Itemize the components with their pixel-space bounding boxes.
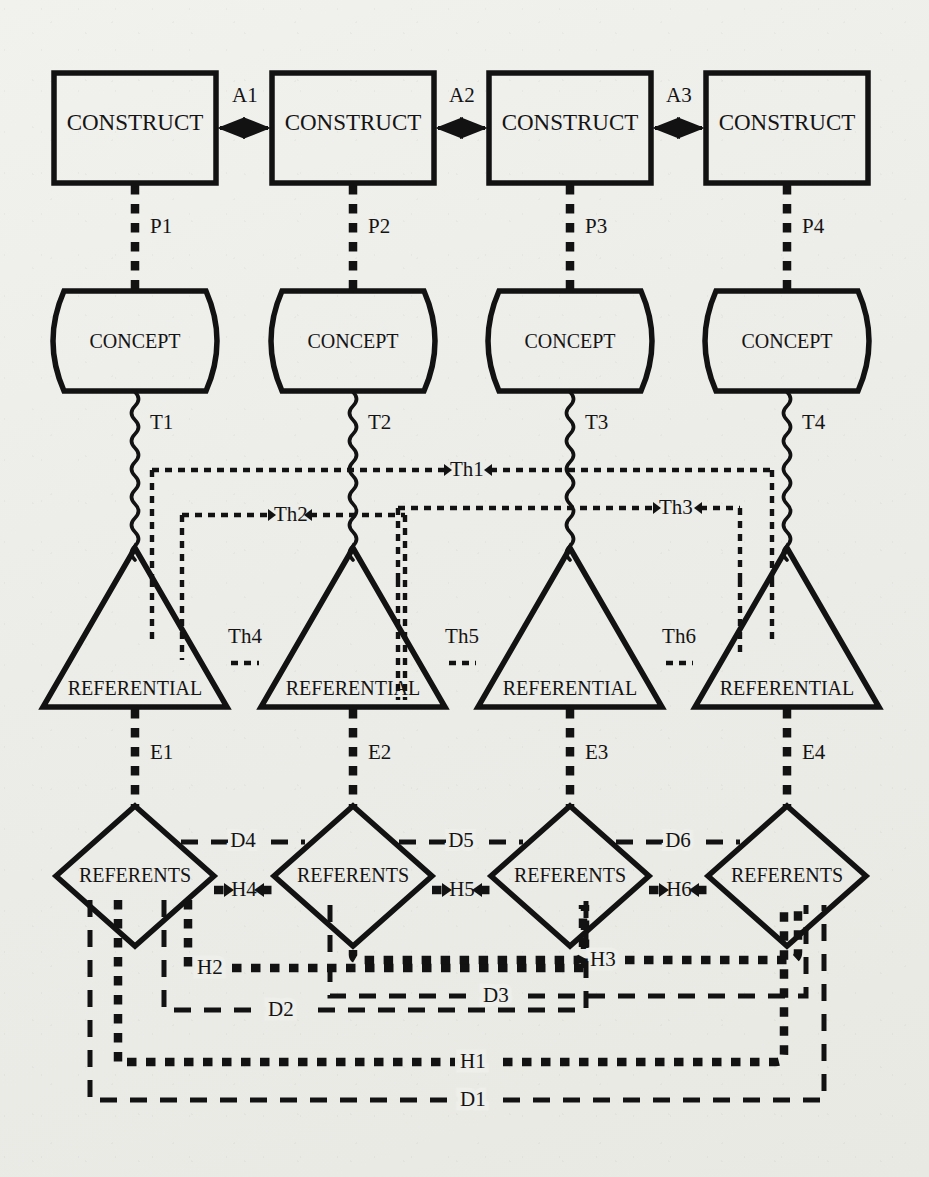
concept-referential-link-t3[interactable]: T3 [567, 392, 609, 560]
node-concept-4[interactable]: CONCEPT [705, 291, 869, 391]
node-concept-2-label: CONCEPT [307, 330, 398, 352]
edge-label-e2: E2 [368, 740, 391, 764]
edge-label-h4: H4 [231, 877, 257, 901]
edge-label-p2: P2 [368, 214, 390, 238]
edge-label-p3: P3 [585, 214, 607, 238]
data-link-d6[interactable]: D6 [616, 828, 740, 852]
concept-row: CONCEPT CONCEPT CONCEPT CONCEPT [53, 291, 869, 391]
construct-link-a3[interactable]: A3 [655, 83, 702, 128]
node-referential-2[interactable]: REFERENTIAL [261, 548, 445, 707]
edge-label-d5: D5 [448, 828, 474, 852]
referential-referents-link-e2[interactable]: E2 [353, 709, 391, 806]
data-link-d3[interactable]: D3 [330, 905, 806, 1007]
data-link-d5[interactable]: D5 [399, 828, 523, 852]
edge-label-e3: E3 [585, 740, 608, 764]
node-concept-1-label: CONCEPT [89, 330, 180, 352]
diagram-svg: CONSTRUCT CONSTRUCT CONSTRUCT CONSTRUCT … [0, 0, 929, 1177]
node-referential-3-label: REFERENTIAL [503, 677, 637, 699]
node-concept-3[interactable]: CONCEPT [488, 291, 652, 391]
hypothesis-link-h6[interactable]: H6 [649, 877, 709, 901]
edge-label-t3: T3 [585, 410, 608, 434]
referential-referents-link-e3[interactable]: E3 [570, 709, 608, 806]
theory-link-th4[interactable]: Th4 [228, 624, 262, 663]
edge-label-t1: T1 [150, 410, 173, 434]
node-construct-3[interactable]: CONSTRUCT [489, 73, 651, 183]
edge-label-th2: Th2 [274, 502, 308, 526]
node-concept-4-label: CONCEPT [741, 330, 832, 352]
node-referents-4[interactable]: REFERENTS [708, 806, 866, 946]
node-construct-1[interactable]: CONSTRUCT [54, 73, 216, 183]
hypothesis-link-h1[interactable]: H1 [118, 900, 784, 1073]
edge-label-th5: Th5 [445, 624, 479, 648]
node-referents-3-label: REFERENTS [514, 864, 626, 886]
edge-label-th4: Th4 [228, 624, 262, 648]
construct-link-a2[interactable]: A2 [438, 83, 485, 128]
edge-label-a3: A3 [666, 83, 692, 107]
edge-label-h2: H2 [197, 955, 223, 979]
construct-concept-link-p2[interactable]: P2 [353, 185, 390, 290]
edge-label-th6: Th6 [662, 624, 696, 648]
edge-label-p1: P1 [150, 214, 172, 238]
node-referential-4-label: REFERENTIAL [720, 677, 854, 699]
construct-concept-link-p3[interactable]: P3 [570, 185, 607, 290]
node-concept-3-label: CONCEPT [524, 330, 615, 352]
edge-label-h6: H6 [666, 877, 692, 901]
edge-label-h1: H1 [460, 1049, 486, 1073]
concept-referential-link-t4[interactable]: T4 [784, 392, 826, 560]
construct-concept-link-p4[interactable]: P4 [787, 185, 825, 290]
edge-label-e1: E1 [150, 740, 173, 764]
edge-label-th3: Th3 [659, 495, 693, 519]
referential-referents-link-e4[interactable]: E4 [787, 709, 826, 806]
theory-link-th2[interactable]: Th2 [182, 502, 405, 580]
data-link-d4[interactable]: D4 [181, 828, 305, 852]
node-concept-2[interactable]: CONCEPT [271, 291, 435, 391]
referential-referents-link-e1[interactable]: E1 [135, 709, 173, 806]
construct-concept-link-p1[interactable]: P1 [135, 185, 172, 290]
node-construct-2[interactable]: CONSTRUCT [272, 73, 434, 183]
hypothesis-link-h4[interactable]: H4 [214, 877, 274, 901]
node-referents-4-label: REFERENTS [731, 864, 843, 886]
hypothesis-link-h2[interactable]: H2 [188, 900, 585, 979]
node-concept-1[interactable]: CONCEPT [53, 291, 217, 391]
data-link-d1[interactable]: D1 [90, 900, 824, 1111]
edge-label-e4: E4 [802, 740, 826, 764]
theory-link-th5[interactable]: Th5 [445, 624, 479, 663]
node-referents-1-label: REFERENTS [79, 864, 191, 886]
construct-link-a1[interactable]: A1 [220, 83, 268, 128]
node-construct-4-label: CONSTRUCT [719, 110, 856, 135]
edge-label-th1: Th1 [450, 457, 484, 481]
hypothesis-link-h5[interactable]: H5 [432, 877, 492, 901]
node-referents-2[interactable]: REFERENTS [274, 806, 432, 946]
edge-label-p4: P4 [802, 214, 825, 238]
edge-label-h3: H3 [590, 947, 616, 971]
node-construct-2-label: CONSTRUCT [285, 110, 422, 135]
edge-label-t4: T4 [802, 410, 826, 434]
edge-label-a2: A2 [449, 83, 475, 107]
edge-label-h5: H5 [449, 877, 475, 901]
edge-label-t2: T2 [368, 410, 391, 434]
theory-link-th3[interactable]: Th3 [398, 495, 740, 580]
node-construct-1-label: CONSTRUCT [67, 110, 204, 135]
node-construct-4[interactable]: CONSTRUCT [706, 73, 868, 183]
node-referents-2-label: REFERENTS [297, 864, 409, 886]
node-referential-1[interactable]: REFERENTIAL [43, 548, 227, 707]
edge-label-d6: D6 [665, 828, 691, 852]
theory-link-th6[interactable]: Th6 [662, 624, 696, 663]
node-referential-4[interactable]: REFERENTIAL [695, 548, 879, 707]
node-construct-3-label: CONSTRUCT [502, 110, 639, 135]
diagram-canvas: CONSTRUCT CONSTRUCT CONSTRUCT CONSTRUCT … [0, 0, 929, 1177]
edge-label-d2: D2 [268, 997, 294, 1021]
edge-label-d4: D4 [230, 828, 256, 852]
concept-referential-link-t2[interactable]: T2 [350, 392, 392, 560]
edge-label-a1: A1 [232, 83, 258, 107]
node-referential-3[interactable]: REFERENTIAL [478, 548, 662, 707]
node-referents-3[interactable]: REFERENTS [491, 806, 649, 946]
edge-label-d3: D3 [483, 983, 509, 1007]
edge-label-d1: D1 [460, 1087, 486, 1111]
node-referential-1-label: REFERENTIAL [68, 677, 202, 699]
